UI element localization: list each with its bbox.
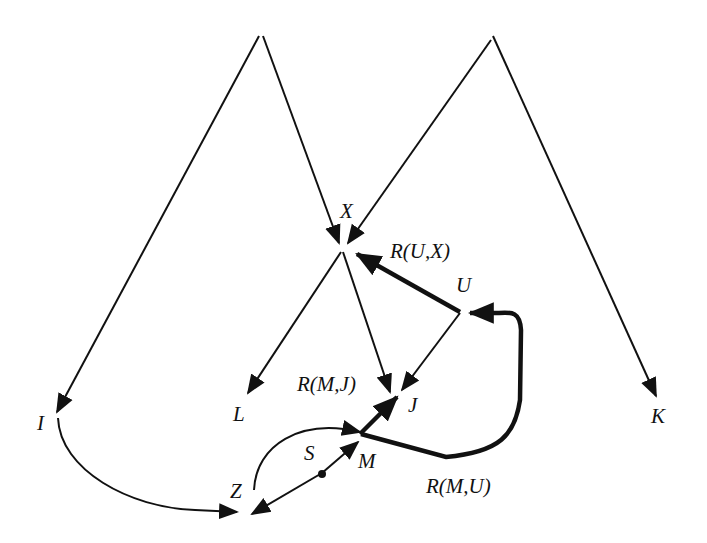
- node-label-s: S: [304, 441, 315, 465]
- edge-m-to-u-bold: [361, 313, 521, 457]
- node-label-u: U: [456, 273, 473, 297]
- edge-apex-right-to-k: [493, 36, 656, 396]
- node-label-j: J: [408, 393, 419, 417]
- edge-x-to-j: [343, 252, 390, 392]
- edge-label-r-mj: R(M,J): [296, 372, 356, 396]
- edge-u-to-j: [402, 313, 460, 390]
- node-label-i: I: [36, 411, 45, 435]
- edge-apex-left-to-i: [57, 36, 259, 412]
- edge-m-to-j-bold: [360, 397, 397, 434]
- node-label-z: Z: [230, 479, 242, 503]
- node-label-x: X: [339, 199, 354, 223]
- edge-i-to-z: [58, 418, 237, 512]
- edge-s-to-z: [252, 473, 322, 514]
- node-label-k: K: [650, 404, 666, 428]
- edge-apex-left-to-x: [263, 36, 339, 243]
- edge-label-r-ux: R(U,X): [389, 239, 450, 263]
- node-s-dot: [318, 470, 326, 478]
- edge-apex-right-to-x: [348, 40, 491, 243]
- edge-s-to-m: [322, 442, 358, 473]
- edge-label-r-mu: R(M,U): [425, 474, 491, 498]
- graph-diagram: X U J L I K Z M S R(U,X) R(M,J) R(M,U): [0, 0, 707, 543]
- node-label-l: L: [232, 402, 245, 426]
- node-label-m: M: [357, 449, 377, 473]
